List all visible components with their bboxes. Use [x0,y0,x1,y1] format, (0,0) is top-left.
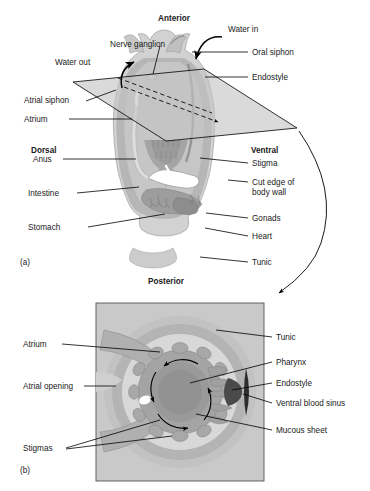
label-stigmas: Stigmas [23,444,53,454]
label-water-out: Water out [55,58,90,68]
label-anterior: Anterior [158,14,190,24]
panel-b-cross-section [96,303,264,481]
leader-gonads [206,213,248,218]
panel-connector-arrow [279,131,327,293]
leader-tunic-a [200,257,248,262]
label-stomach: Stomach [28,223,60,233]
leader-cut-edge [228,180,248,182]
label-cut-edge-of-body-wall: Cut edge of body wall [252,178,294,197]
label-water-in: Water in [228,25,258,35]
tunic-foot [129,248,176,268]
label-ventral-blood-sinus: Ventral blood sinus [276,399,345,409]
label-stigma: Stigma [252,159,277,169]
pharynx-lumen-inner [158,370,202,414]
label-pharynx: Pharynx [276,358,306,368]
label-ventral: Ventral [251,146,278,156]
label-intestine: Intestine [28,189,59,199]
label-endostyle-b: Endostyle [276,379,312,389]
label-oral-siphon: Oral siphon [252,48,294,58]
label-mucous-sheet: Mucous sheet [276,426,327,436]
label-tunic-b: Tunic [276,333,296,343]
label-nerve-ganglion: Nerve ganglion [110,40,165,50]
label-atrial-opening: Atrial opening [23,382,73,392]
figure-artwork [0,0,370,491]
leader-water-in [196,37,222,59]
label-atrium-b: Atrium [23,340,47,350]
label-gonads: Gonads [252,214,281,224]
label-posterior: Posterior [148,277,184,287]
label-heart: Heart [252,232,272,242]
panel-caption-b: (b) [20,466,30,476]
label-endostyle: Endostyle [252,73,288,83]
label-tunic-a: Tunic [252,258,272,268]
figure-root: Anterior Posterior Dorsal Ventral Nerve … [0,0,370,491]
leader-heart [205,228,248,236]
label-atrium: Atrium [24,115,48,125]
label-atrial-siphon: Atrial siphon [24,96,69,106]
panel-caption-a: (a) [20,258,30,268]
label-anus: Anus [33,155,52,165]
